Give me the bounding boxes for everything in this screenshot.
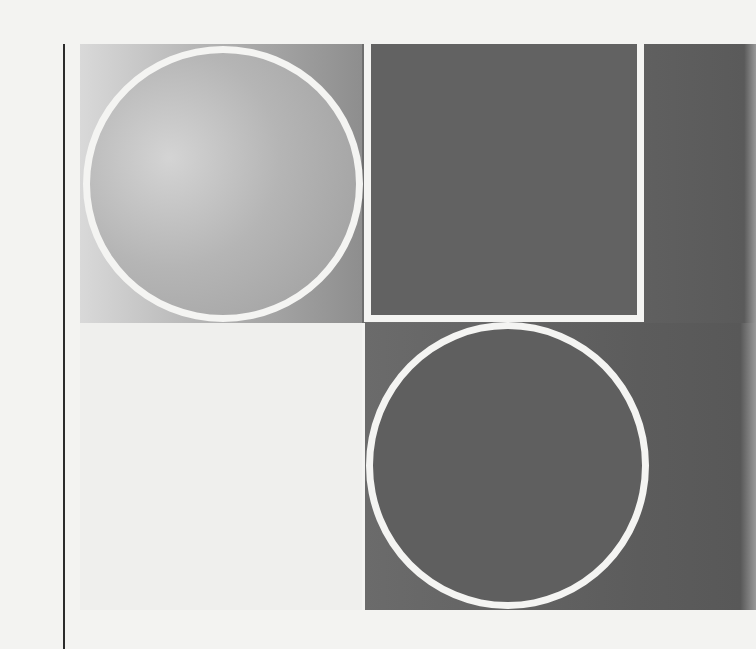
circle-bottom-right-shape — [366, 322, 649, 609]
square-outline-shape — [364, 44, 644, 322]
margin-rule — [63, 44, 65, 649]
artwork-grid — [80, 44, 756, 610]
circle-top-left-shape — [83, 46, 363, 322]
page-bottom-margin — [66, 610, 756, 649]
cell-bottom-left-blank — [80, 323, 362, 610]
